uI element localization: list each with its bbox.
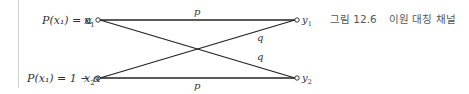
edge-label-p-bottom: p [194, 80, 201, 91]
output-node-label-2: y2 [301, 72, 312, 86]
figure-number: 그림 12.6 [330, 13, 377, 25]
figure-caption: 그림 12.6 이원 대칭 채널 [330, 11, 456, 26]
node-y2 [295, 76, 299, 80]
edge-label-q-upper: q [257, 32, 263, 43]
edge-label-p-top: p [194, 6, 201, 17]
input-node-label-1: x1 [84, 14, 95, 29]
node-x1 [96, 18, 100, 22]
node-y1 [295, 18, 299, 22]
output-node-label-1: y1 [301, 14, 312, 28]
edge-label-q-lower: q [257, 51, 263, 62]
figure-title: 이원 대칭 채널 [389, 13, 456, 25]
